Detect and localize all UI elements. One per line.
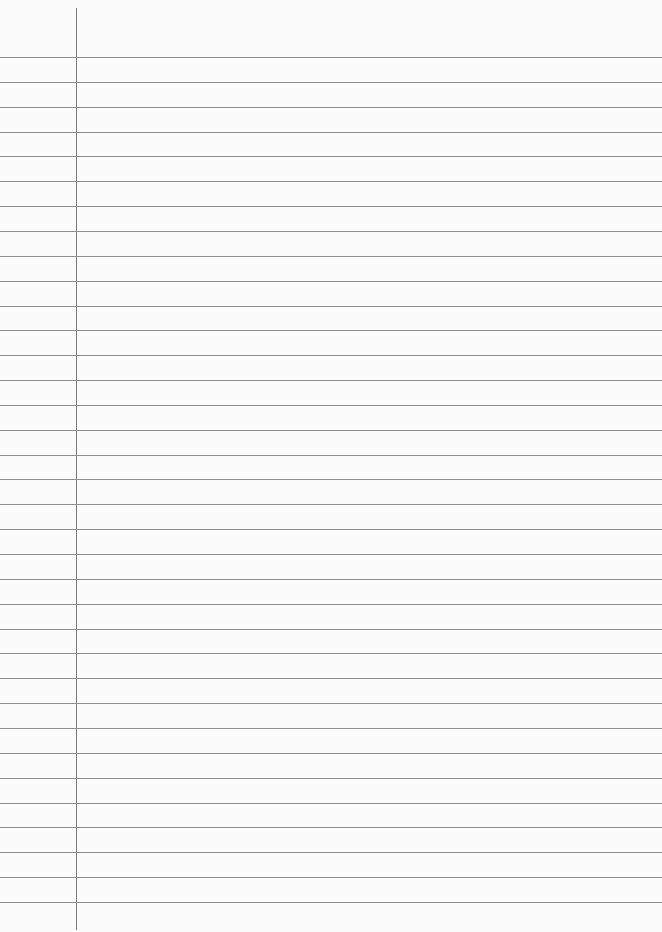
- margin-line: [76, 8, 77, 930]
- ruled-line: [0, 281, 662, 282]
- ruled-line: [0, 579, 662, 580]
- ruled-line: [0, 877, 662, 878]
- ruled-line: [0, 256, 662, 257]
- ruled-line: [0, 504, 662, 505]
- ruled-line: [0, 107, 662, 108]
- ruled-line: [0, 380, 662, 381]
- ruled-line: [0, 852, 662, 853]
- ruled-line: [0, 479, 662, 480]
- ruled-line: [0, 803, 662, 804]
- ruled-line: [0, 82, 662, 83]
- ruled-line: [0, 231, 662, 232]
- ruled-line: [0, 206, 662, 207]
- ruled-line: [0, 330, 662, 331]
- ruled-line: [0, 529, 662, 530]
- ruled-line: [0, 405, 662, 406]
- ruled-line: [0, 604, 662, 605]
- ruled-line: [0, 653, 662, 654]
- ruled-line: [0, 778, 662, 779]
- ruled-line: [0, 902, 662, 903]
- ruled-line: [0, 181, 662, 182]
- ruled-line: [0, 430, 662, 431]
- ruled-line: [0, 554, 662, 555]
- ruled-line: [0, 455, 662, 456]
- ruled-line: [0, 827, 662, 828]
- ruled-line: [0, 306, 662, 307]
- ruled-line: [0, 355, 662, 356]
- ruled-line: [0, 728, 662, 729]
- ruled-line: [0, 703, 662, 704]
- ruled-line: [0, 629, 662, 630]
- ruled-line: [0, 57, 662, 58]
- ruled-line: [0, 156, 662, 157]
- ruled-line: [0, 753, 662, 754]
- ruled-line: [0, 132, 662, 133]
- ruled-line: [0, 678, 662, 679]
